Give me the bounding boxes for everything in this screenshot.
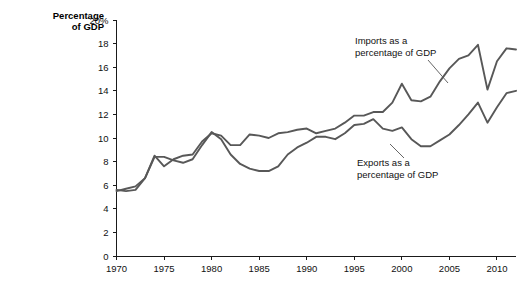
chart-container: 02468101214161820% 197019751980198519901… [0, 0, 530, 292]
imports-annotation-line1: Imports as a [355, 35, 408, 46]
x-tick-label: 1970 [106, 263, 127, 274]
y-tick-label: 6 [103, 180, 108, 191]
y-axis-title-line1: Percentage [53, 10, 104, 21]
y-tick-label: 4 [103, 203, 108, 214]
x-tick-label: 2005 [439, 263, 460, 274]
imports-leader-line [428, 60, 448, 83]
imports-annotation-line2: percentage of GDP [355, 47, 436, 58]
y-tick-label: 0 [103, 251, 108, 262]
y-tick-label: 16 [98, 62, 109, 73]
y-axis-title-line2: of GDP [72, 21, 105, 32]
exports-annotation-line1: Exports as a [357, 157, 411, 168]
y-tick-label: 10 [98, 133, 109, 144]
x-tick-label: 1990 [296, 263, 317, 274]
x-tick-label: 1975 [153, 263, 174, 274]
x-tick-label: 2000 [391, 263, 412, 274]
y-axis: 02468101214161820% [89, 15, 116, 262]
y-tick-label: 8 [103, 156, 108, 167]
y-tick-label: 18 [98, 38, 109, 49]
gdp-trade-line-chart: 02468101214161820% 197019751980198519901… [0, 0, 530, 292]
x-tick-label: 1985 [249, 263, 270, 274]
imports-series-line [117, 45, 517, 191]
y-tick-label: 2 [103, 227, 108, 238]
y-tick-label: 12 [98, 109, 109, 120]
y-tick-label: 14 [98, 85, 109, 96]
exports-annotation-line2: percentage of GDP [357, 169, 438, 180]
exports-leader-line [390, 144, 404, 158]
x-axis: 197019751980198519901995200020052010 [106, 256, 508, 274]
x-tick-label: 1995 [344, 263, 365, 274]
x-tick-label: 2010 [486, 263, 507, 274]
exports-series-line [117, 91, 517, 191]
x-tick-label: 1980 [201, 263, 222, 274]
